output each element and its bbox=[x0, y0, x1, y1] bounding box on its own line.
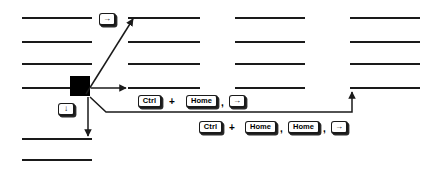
arrow-group bbox=[86, 19, 352, 136]
plus-operator-2: + bbox=[229, 123, 235, 133]
key-arrow-right-top-label: → bbox=[103, 15, 111, 23]
diagram-svg bbox=[0, 0, 435, 172]
key-ctrl-label: Ctrl bbox=[143, 97, 156, 105]
diagram-canvas: → ↓ Ctrl + Home , → Ctrl + Home , Home , bbox=[0, 0, 435, 172]
key-arrow-right-2-label: → bbox=[335, 123, 343, 131]
key-home-a[interactable]: Home bbox=[245, 121, 277, 134]
comma-separator-a: , bbox=[280, 124, 283, 134]
plus-operator: + bbox=[169, 97, 175, 107]
key-arrow-right[interactable]: → bbox=[229, 95, 246, 108]
key-arrow-right-2[interactable]: → bbox=[331, 121, 348, 134]
comma-separator: , bbox=[221, 98, 224, 108]
key-ctrl-2[interactable]: Ctrl bbox=[199, 121, 223, 134]
comma-separator-b: , bbox=[323, 124, 326, 134]
key-arrow-down-left[interactable]: ↓ bbox=[58, 103, 75, 116]
key-home-a-label: Home bbox=[250, 123, 271, 131]
key-home-b[interactable]: Home bbox=[288, 121, 320, 134]
key-home[interactable]: Home bbox=[186, 95, 218, 108]
key-arrow-right-label: → bbox=[233, 97, 241, 105]
key-arrow-right-top[interactable]: → bbox=[99, 13, 116, 26]
key-home-b-label: Home bbox=[293, 123, 314, 131]
key-ctrl-2-label: Ctrl bbox=[204, 123, 217, 131]
arrow-up-right-to-row1 bbox=[86, 19, 133, 94]
key-home-label: Home bbox=[191, 97, 212, 105]
key-arrow-down-left-label: ↓ bbox=[64, 105, 68, 113]
key-ctrl[interactable]: Ctrl bbox=[138, 95, 162, 108]
